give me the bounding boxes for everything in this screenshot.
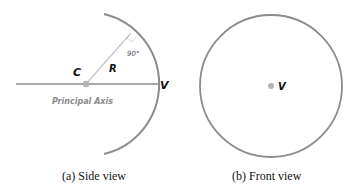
right-angle-marker — [127, 37, 136, 42]
side-view: C R V 90° Principal Axis (a) Side view — [16, 14, 170, 183]
center-label: C — [73, 66, 81, 79]
front-vertex-label: V — [278, 81, 287, 92]
vertex-point — [268, 83, 274, 89]
diagram-canvas: C R V 90° Principal Axis (a) Side view V… — [0, 0, 354, 191]
side-view-caption: (a) Side view — [62, 169, 126, 183]
vertex-label: V — [160, 79, 170, 92]
front-view-caption: (b) Front view — [232, 169, 302, 183]
front-view: V (b) Front view — [200, 15, 342, 183]
center-of-curvature-point — [83, 81, 89, 87]
principal-axis-label: Principal Axis — [52, 97, 113, 106]
radius-label: R — [109, 63, 117, 74]
radius-line — [86, 33, 131, 84]
angle-label: 90° — [127, 50, 139, 58]
